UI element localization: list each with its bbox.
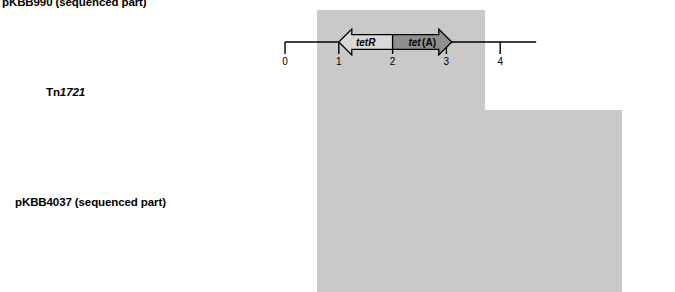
tick-label: 1 — [329, 56, 349, 67]
tick-label: 0 — [275, 56, 295, 67]
genetic-map-svg: tetRtet(A) — [0, 0, 675, 292]
tick-label: 2 — [383, 56, 403, 67]
gene-label: tetR — [356, 37, 376, 48]
row-label-middle-prefix: Tn1721 — [46, 86, 85, 98]
tick-label: 3 — [436, 56, 456, 67]
gene-label: tet(A) — [408, 37, 436, 48]
tick-label: 4 — [490, 56, 510, 67]
highlight-band-lower — [317, 110, 622, 292]
row-label-middle: Tn1721 — [46, 86, 85, 98]
row-label-bottom: pKBB4037 (sequenced part) — [15, 196, 166, 208]
